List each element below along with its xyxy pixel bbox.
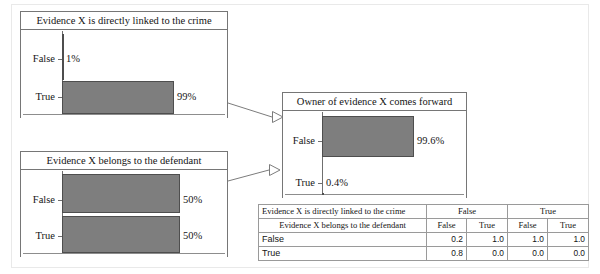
axis-baseline <box>23 253 225 254</box>
node-evidence-belongs[interactable]: Evidence X belongs to the defendant Fals… <box>20 151 228 257</box>
parent1-state-false: False <box>427 205 508 219</box>
category-label-true: True <box>283 177 315 188</box>
bar-value-true: 0.4% <box>326 177 348 188</box>
bar-value-true: 50% <box>183 230 202 241</box>
node-title: Owner of evidence X comes forward <box>283 93 466 111</box>
node-evidence-linked[interactable]: Evidence X is directly linked to the cri… <box>20 11 228 118</box>
parent2-state-2: True <box>467 219 508 233</box>
bar-value-false: 50% <box>183 194 202 205</box>
row-label: True <box>259 247 427 261</box>
cell-value: 0.0 <box>548 247 589 261</box>
parent-name-cell: Evidence X is directly linked to the cri… <box>259 205 427 219</box>
bar-true <box>62 216 180 253</box>
cell-value: 0.8 <box>427 247 467 261</box>
bar-true <box>322 193 324 195</box>
parent2-state-1: False <box>427 219 467 233</box>
bar-false <box>62 34 64 80</box>
node-title: Evidence X is directly linked to the cri… <box>21 12 227 30</box>
table-header-row-parent2: Evidence X belongs to the defendant Fals… <box>259 219 589 233</box>
category-label-true: True <box>21 91 55 102</box>
diagram-canvas: Evidence X is directly linked to the cri… <box>0 0 600 274</box>
node-owner-comes-forward[interactable]: Owner of evidence X comes forward False … <box>282 92 467 198</box>
axis-baseline <box>23 114 225 115</box>
category-label-false: False <box>283 135 315 146</box>
node-chart: False 50% True 50% <box>21 170 227 257</box>
bar-false <box>62 174 180 213</box>
cell-value: 0.0 <box>508 247 548 261</box>
category-label-false: False <box>21 194 55 205</box>
parent-name-cell: Evidence X belongs to the defendant <box>259 219 427 233</box>
table-header-row-parent1: Evidence X is directly linked to the cri… <box>259 205 589 219</box>
parent2-state-3: False <box>508 219 548 233</box>
table-row[interactable]: False 0.2 1.0 1.0 1.0 <box>259 233 589 247</box>
bar-value-false: 99.6% <box>417 135 444 146</box>
node-title: Evidence X belongs to the defendant <box>21 152 227 170</box>
axis-baseline <box>285 194 464 195</box>
cell-value: 0.2 <box>427 233 467 247</box>
bar-value-true: 99% <box>177 91 196 102</box>
node-chart: False 1% True 99% <box>21 30 227 118</box>
row-label: False <box>259 233 427 247</box>
bar-value-false: 1% <box>66 53 80 64</box>
cell-value: 1.0 <box>548 233 589 247</box>
conditional-probability-table[interactable]: Evidence X is directly linked to the cri… <box>258 204 589 261</box>
bar-true <box>62 81 174 114</box>
category-label-false: False <box>21 53 55 64</box>
table-row[interactable]: True 0.8 0.0 0.0 0.0 <box>259 247 589 261</box>
cell-value: 0.0 <box>467 247 508 261</box>
cell-value: 1.0 <box>467 233 508 247</box>
node-chart: False 99.6% True 0.4% <box>283 111 466 198</box>
cell-value: 1.0 <box>508 233 548 247</box>
parent1-state-true: True <box>508 205 589 219</box>
tick-true <box>318 183 322 184</box>
parent2-state-4: True <box>548 219 589 233</box>
bar-false <box>322 116 414 157</box>
category-label-true: True <box>21 230 55 241</box>
